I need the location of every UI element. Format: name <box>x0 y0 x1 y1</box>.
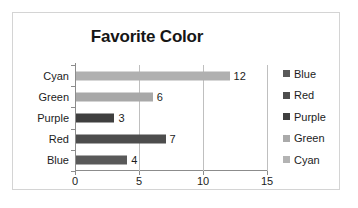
chart-title: Favorite Color <box>13 27 281 47</box>
bar-value-label-cyan: 12 <box>229 70 246 82</box>
category-label-purple: Purple <box>37 112 69 124</box>
bar-red[interactable] <box>76 135 166 144</box>
bar-cyan[interactable] <box>76 71 230 80</box>
y-tick-cyan <box>71 65 75 66</box>
bar-blue[interactable] <box>76 156 127 165</box>
legend-label-blue: Blue <box>294 68 316 80</box>
y-tick-purple <box>71 107 75 108</box>
legend-label-purple: Purple <box>294 111 326 123</box>
legend-label-red: Red <box>294 89 314 101</box>
chart-legend: BlueRedPurpleGreenCyan <box>283 63 340 171</box>
bar-value-label-green: 6 <box>152 91 163 103</box>
legend-label-cyan: Cyan <box>294 154 320 166</box>
y-tick-red <box>71 129 75 130</box>
x-tick-label-0: 0 <box>72 175 78 187</box>
chart-frame: Favorite Color Cyan12Green6Purple3Red7Bl… <box>12 12 340 190</box>
category-label-green: Green <box>38 91 69 103</box>
y-tick-green <box>71 86 75 87</box>
category-label-blue: Blue <box>47 154 69 166</box>
bar-row-purple: Purple3 <box>75 107 267 128</box>
legend-swatch-red <box>283 92 290 99</box>
bar-row-red: Red7 <box>75 129 267 150</box>
bar-green[interactable] <box>76 92 153 101</box>
legend-item-red[interactable]: Red <box>283 85 340 107</box>
bar-row-green: Green6 <box>75 86 267 107</box>
legend-swatch-blue <box>283 70 290 77</box>
legend-item-cyan[interactable]: Cyan <box>283 149 340 171</box>
gridline-15 <box>267 65 268 171</box>
plot-area: Cyan12Green6Purple3Red7Blue4 051015 <box>75 65 267 171</box>
x-tick-label-5: 5 <box>136 175 142 187</box>
bar-value-label-purple: 3 <box>113 112 124 124</box>
bar-purple[interactable] <box>76 113 114 122</box>
bar-value-label-blue: 4 <box>126 154 137 166</box>
x-tick-label-15: 15 <box>261 175 273 187</box>
y-tick-blue <box>71 150 75 151</box>
bar-value-label-red: 7 <box>165 133 176 145</box>
legend-swatch-green <box>283 135 290 142</box>
category-label-red: Red <box>49 133 69 145</box>
legend-item-blue[interactable]: Blue <box>283 63 340 85</box>
bar-row-blue: Blue4 <box>75 150 267 171</box>
category-label-cyan: Cyan <box>43 70 69 82</box>
legend-item-purple[interactable]: Purple <box>283 106 340 128</box>
legend-swatch-purple <box>283 113 290 120</box>
x-tick-label-10: 10 <box>197 175 209 187</box>
bar-row-cyan: Cyan12 <box>75 65 267 86</box>
legend-label-green: Green <box>294 132 325 144</box>
legend-swatch-cyan <box>283 156 290 163</box>
legend-item-green[interactable]: Green <box>283 128 340 150</box>
